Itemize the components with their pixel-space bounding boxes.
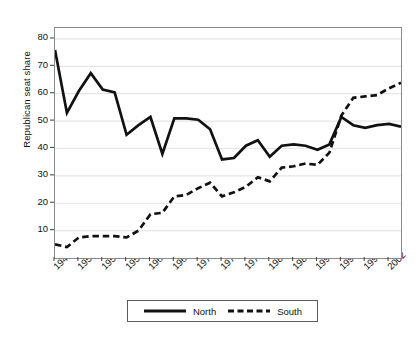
gridlines xyxy=(55,39,401,231)
y-tick-label: 60 xyxy=(26,86,48,97)
chart-figure: Republican seat share 1020304050607080 1… xyxy=(0,0,419,337)
y-tick-label: 50 xyxy=(26,114,48,125)
legend-label-south: South xyxy=(277,306,302,317)
legend-label-north: North xyxy=(193,306,216,317)
y-tick-label: 80 xyxy=(26,31,48,42)
legend-entry-north: North xyxy=(143,306,216,317)
legend-entry-south: South xyxy=(227,306,302,317)
legend-swatch-dashed xyxy=(227,306,271,316)
legend-swatch-solid xyxy=(143,306,187,316)
y-tick-label: 70 xyxy=(26,59,48,70)
y-tick-label: 30 xyxy=(26,168,48,179)
y-tick-label: 10 xyxy=(26,223,48,234)
plot-area xyxy=(54,27,402,259)
chart-legend: North South xyxy=(127,300,318,322)
y-tick-label: 20 xyxy=(26,196,48,207)
plot-svg xyxy=(55,28,401,258)
y-tick-label: 40 xyxy=(26,141,48,152)
series-line-south xyxy=(55,83,401,247)
